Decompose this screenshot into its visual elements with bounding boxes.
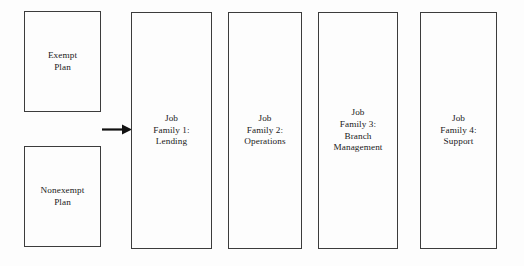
nonexempt-plan-box: Nonexempt Plan: [24, 146, 101, 247]
nonexempt-plan-label: Nonexempt Plan: [38, 185, 88, 208]
job-family-3-label: Job Family 3: Branch Management: [331, 107, 386, 153]
exempt-plan-label: Exempt Plan: [45, 50, 80, 73]
job-family-2-box: Job Family 2: Operations: [228, 12, 302, 249]
job-family-4-box: Job Family 4: Support: [420, 12, 497, 249]
job-family-4-label: Job Family 4: Support: [437, 113, 479, 148]
plans-to-families-arrow-icon: [102, 125, 132, 135]
job-family-3-box: Job Family 3: Branch Management: [318, 12, 398, 249]
job-family-1-label: Job Family 1: Lending: [150, 113, 192, 148]
job-family-diagram: Exempt Plan Nonexempt Plan Job Family 1:…: [0, 0, 524, 266]
job-family-1-box: Job Family 1: Lending: [131, 12, 212, 249]
job-family-2-label: Job Family 2: Operations: [241, 113, 288, 148]
exempt-plan-box: Exempt Plan: [24, 11, 101, 112]
